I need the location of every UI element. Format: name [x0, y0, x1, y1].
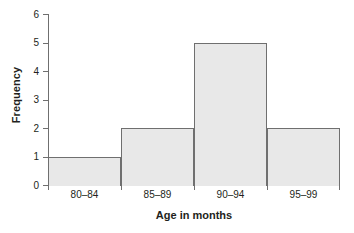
x-tick-label: 85–89: [144, 190, 172, 200]
histogram-bar: [48, 157, 121, 187]
histogram-bar: [194, 43, 267, 187]
y-tick-label: 4: [33, 67, 39, 77]
y-tick: 2: [43, 128, 48, 129]
y-tick: 3: [43, 100, 48, 101]
y-tick-label: 5: [33, 38, 39, 48]
histogram-bar: [267, 128, 340, 186]
histogram-bar: [121, 128, 194, 186]
x-tick: [267, 185, 268, 190]
x-tick-label: 80–84: [71, 190, 99, 200]
x-axis-title: Age in months: [48, 209, 340, 221]
y-axis-title-text: Frequency: [10, 67, 22, 124]
y-tick: 5: [43, 43, 48, 44]
y-axis-title: Frequency: [6, 0, 26, 190]
x-tick-label: 90–94: [217, 190, 245, 200]
y-tick-label: 6: [33, 10, 39, 20]
y-tick: 4: [43, 71, 48, 72]
y-tick-label: 1: [33, 152, 39, 162]
x-tick-label: 95–99: [290, 190, 318, 200]
x-tick: [121, 185, 122, 190]
x-tick: [339, 185, 340, 190]
x-tick: [194, 185, 195, 190]
histogram-figure: Frequency 0123456 80–8485–8990–9495–99 A…: [0, 0, 354, 233]
y-tick-label: 0: [33, 181, 39, 191]
y-tick: 6: [43, 14, 48, 15]
plot-area: 0123456: [48, 14, 340, 185]
x-tick: [48, 185, 49, 190]
y-tick-label: 3: [33, 95, 39, 105]
y-tick-label: 2: [33, 124, 39, 134]
